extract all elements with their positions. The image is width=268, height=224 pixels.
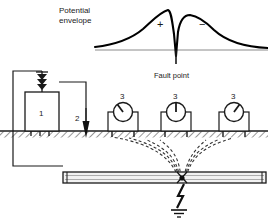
meter-left-label: 3 [120,92,125,101]
underground-cable [63,172,266,183]
potential-envelope-label-line2: envelope [59,16,92,25]
wire-to-electrode [59,82,86,131]
spark-gap-icon [36,71,48,92]
lightning-bolt-icon [177,184,184,208]
potential-envelope-chart [95,10,268,64]
fault-point-label: Fault point [154,71,190,80]
meter-left[interactable]: 3 [108,92,138,137]
fault-location-diagram: Potential envelope + − Fault point 1 [0,0,268,224]
meter-right[interactable]: 3 [219,92,249,137]
meter-right-label: 3 [231,92,236,101]
source-unit-label: 1 [39,109,44,118]
envelope-curve [95,10,268,56]
flow-line [186,138,233,177]
earth-ground-icon [171,210,187,217]
cable-body [63,172,266,183]
current-flow-lines [112,137,233,177]
minus-sign-label: − [199,18,205,30]
meter-center[interactable]: 3 [161,92,191,137]
potential-envelope-label-line1: Potential [59,6,90,15]
ground-electrode-label: 2 [75,114,80,123]
plus-sign-label: + [157,18,163,30]
meter-center-label: 3 [173,92,178,101]
diagram-canvas: Potential envelope + − Fault point 1 [0,0,268,224]
